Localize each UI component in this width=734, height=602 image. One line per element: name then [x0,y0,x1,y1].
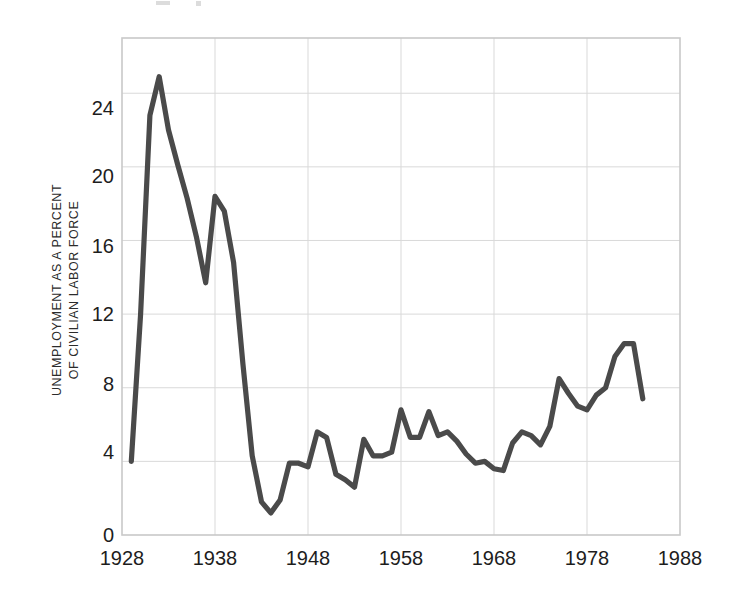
chart-figure: UNEMPLOYMENT AS A PERCENT OF CIVILIAN LA… [0,0,734,602]
grid-lines [122,38,680,535]
unemployment-line-series [131,77,643,513]
plot-area [0,0,734,602]
